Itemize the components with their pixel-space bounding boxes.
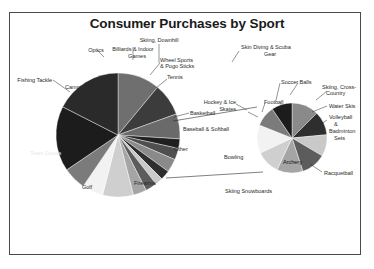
slice-label-wheel-sports-line2: & Pogo Sticks bbox=[160, 63, 210, 70]
slice-label-skiing-snowboards: Skiing Snowboards bbox=[225, 188, 287, 195]
series-connectors bbox=[166, 107, 263, 178]
slice-label-volleyball-line2: & bbox=[334, 121, 344, 128]
slice-label-skiing-cross-line2: Country bbox=[326, 90, 360, 97]
slice-label-tennis: Tennis bbox=[167, 74, 193, 81]
main-pie bbox=[56, 73, 180, 197]
chart-figure: Consumer Purchases by Sport Optics Billi… bbox=[0, 0, 374, 269]
slice-label-football: Football bbox=[264, 99, 292, 106]
slice-label-hockey-ice-skates: Hockey & Ice bbox=[194, 99, 236, 106]
slice-label-water-skis: Water Skis bbox=[329, 103, 367, 110]
slice-label-camping: Camping bbox=[57, 84, 95, 91]
slice-label-other: Other bbox=[174, 146, 198, 153]
slice-label-fishing-tackle: Fishing Tackle bbox=[6, 77, 52, 84]
slice-label-racquetball: Racquetball bbox=[324, 170, 368, 177]
slice-label-volleyball-line4: Sets bbox=[334, 135, 356, 142]
slice-label-team-goods: Team Goods bbox=[30, 150, 74, 157]
slice-label-skin-diving: Skin Diving & Scuba bbox=[241, 44, 303, 51]
slice-label-golf: Golf bbox=[82, 184, 104, 191]
slice-label-firearms: Firearms bbox=[134, 180, 166, 187]
slice-label-billiards-line2: Games bbox=[122, 53, 152, 60]
slice-label-archery: Archery bbox=[283, 159, 313, 166]
slice-label-soccer-balls: Soccer Balls bbox=[281, 79, 321, 86]
slice-label-skin-diving-line2: Gear bbox=[252, 51, 288, 58]
slice-label-skiing-downhill: Skiing, Downhill bbox=[133, 37, 185, 44]
slice-label-hockey-line2: Skates bbox=[198, 106, 236, 113]
slice-label-baseball-softball: Baseball & Softball bbox=[183, 126, 245, 133]
slice-label-bowling: Bowling bbox=[224, 154, 254, 161]
slice-label-volleyball-line3: Badminton bbox=[329, 128, 369, 135]
slice-label-billiards: Billiards & Indoor bbox=[104, 46, 162, 53]
slice-label-volleyball: Volleyball bbox=[329, 114, 367, 121]
pie-chart-graphic bbox=[0, 0, 374, 269]
